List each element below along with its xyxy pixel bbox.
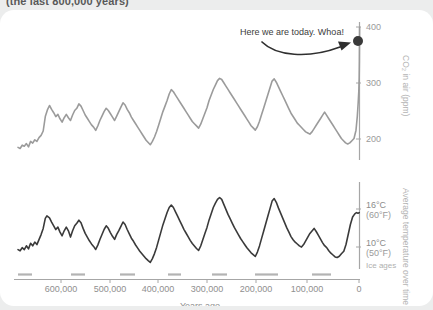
x-tick-label-400000: 400,000 xyxy=(142,284,175,294)
co2-chart: 400 300 200 CO₂ in air (ppm) Here we are… xyxy=(18,22,411,160)
co2-axis-title: CO₂ in air (ppm) xyxy=(401,55,411,117)
x-tick-label-0: 0 xyxy=(356,284,361,294)
co2-tick-label-200: 200 xyxy=(366,134,381,144)
page-title: (the last 800,000 years) xyxy=(6,0,129,7)
x-tick-label-600000: 600,000 xyxy=(45,284,78,294)
co2-tick-label-300: 300 xyxy=(366,78,381,88)
temperature-series-line xyxy=(18,198,359,263)
climate-chart-svg: 400 300 200 CO₂ in air (ppm) Here we are… xyxy=(0,10,433,306)
temp-tick-label-50f: (50°F) xyxy=(366,248,391,258)
annotation-label: Here we are today. Whoa! xyxy=(240,27,344,37)
temp-tick-label-16c: 16°C xyxy=(366,200,387,210)
x-tick-label-300000: 300,000 xyxy=(191,284,224,294)
co2-series-line xyxy=(18,27,360,148)
x-tick-label-500000: 500,000 xyxy=(94,284,127,294)
today-marker-dot xyxy=(353,36,363,46)
temp-tick-label-60f: (60°F) xyxy=(366,210,391,220)
chart-page: (the last 800,000 years) 400 300 200 CO₂… xyxy=(0,0,433,310)
x-axis: 600,000 500,000 400,000 300,000 200,000 … xyxy=(14,280,362,307)
ice-ages-legend-label: Ice ages xyxy=(366,261,396,270)
temp-axis-title: Average temperature over time (°C) xyxy=(401,188,411,306)
x-axis-title: Years ago xyxy=(180,301,220,306)
x-tick-label-200000: 200,000 xyxy=(240,284,273,294)
x-tick-label-100000: 100,000 xyxy=(291,284,324,294)
chart-card: 400 300 200 CO₂ in air (ppm) Here we are… xyxy=(0,10,433,306)
co2-tick-label-400: 400 xyxy=(366,22,381,32)
annotation-arrowhead-icon xyxy=(338,42,351,51)
annotation-arrow-icon xyxy=(262,42,340,54)
temp-tick-label-10c: 10°C xyxy=(366,238,387,248)
